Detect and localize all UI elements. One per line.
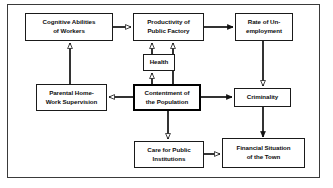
node-contentment[interactable]: Contentment of the Population xyxy=(133,84,201,111)
node-label: Cognitive Abilities of Workers xyxy=(41,18,98,35)
node-parental-supervision[interactable]: Parental Home- Work Supervision xyxy=(36,84,107,111)
node-label: Rate of Un- employment xyxy=(244,18,284,35)
diagram-canvas: Cognitive Abilities of Workers Productiv… xyxy=(0,0,333,188)
node-label: Financial Situation of the Town xyxy=(234,144,292,161)
node-productivity[interactable]: Productivity of Public Factory xyxy=(133,13,204,41)
node-label: Criminality xyxy=(245,93,280,102)
node-unemployment[interactable]: Rate of Un- employment xyxy=(235,13,293,41)
node-criminality[interactable]: Criminality xyxy=(234,88,291,107)
node-label: Parental Home- Work Supervision xyxy=(44,89,100,106)
node-label: Productivity of Public Factory xyxy=(145,18,192,35)
node-cognitive-abilities[interactable]: Cognitive Abilities of Workers xyxy=(25,13,113,41)
node-care-public-institutions[interactable]: Care for Public Institutions xyxy=(134,141,204,168)
node-label: Health xyxy=(148,58,171,67)
node-financial-situation[interactable]: Financial Situation of the Town xyxy=(222,138,305,168)
node-label: Contentment of the Population xyxy=(142,89,191,106)
node-label: Care for Public Institutions xyxy=(145,146,192,163)
node-health[interactable]: Health xyxy=(143,54,175,71)
